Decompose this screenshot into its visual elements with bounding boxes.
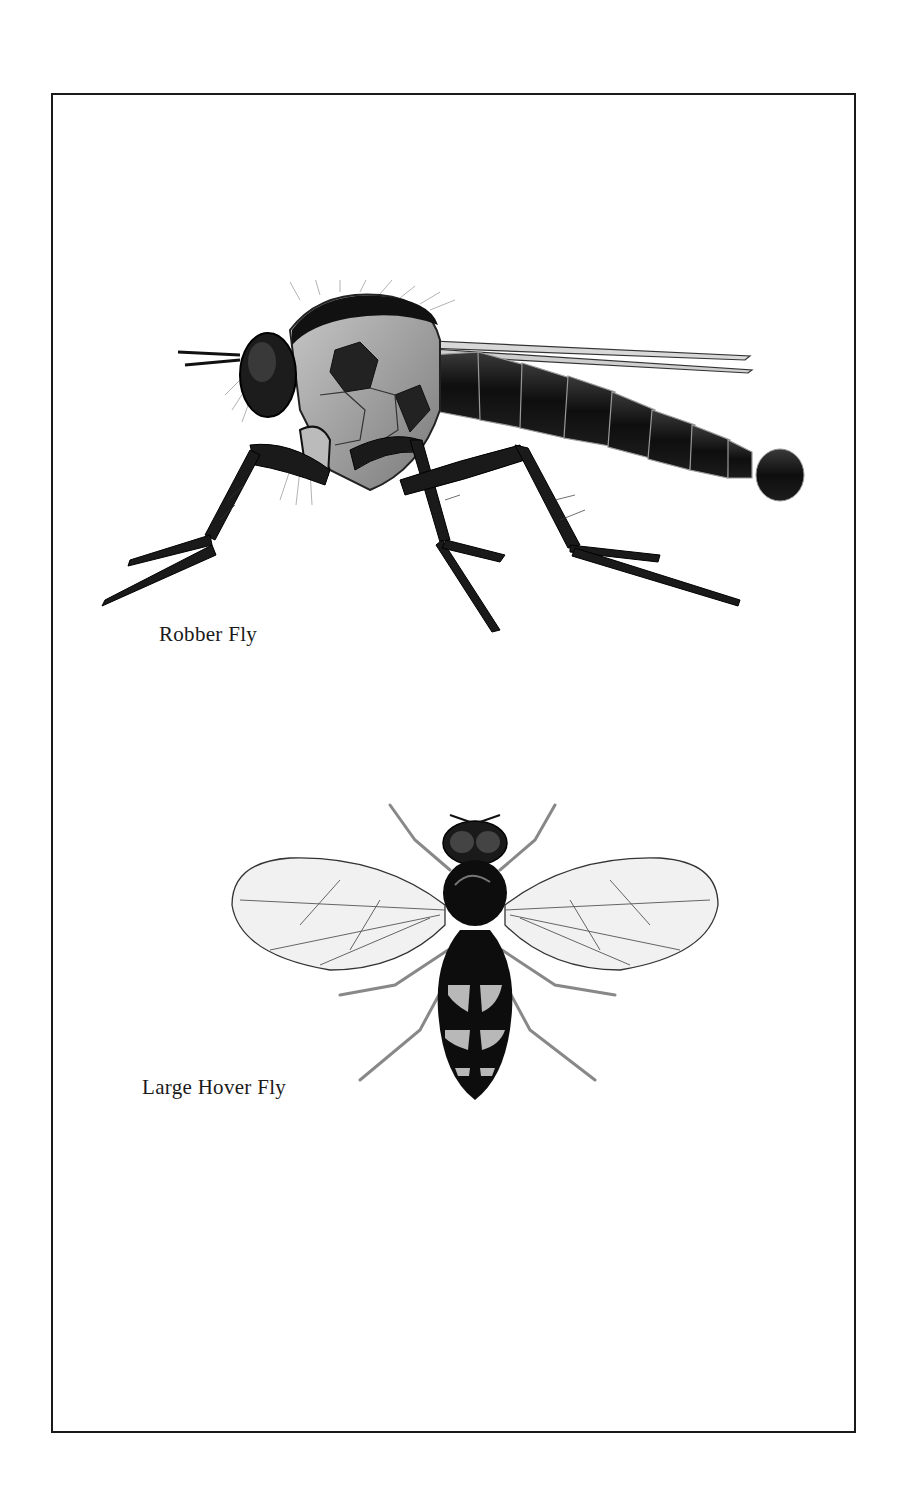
- robber-fly-caption: Robber Fly: [159, 622, 257, 647]
- large-hover-fly-caption: Large Hover Fly: [142, 1075, 286, 1100]
- robber-fly-illustration: [90, 280, 820, 640]
- large-hover-fly-illustration: [225, 795, 725, 1105]
